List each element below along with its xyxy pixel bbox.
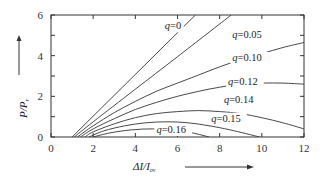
x-tick-label: 10 <box>256 142 268 154</box>
y-tick-label: 0 <box>38 131 44 143</box>
x-tick-label: 6 <box>175 142 181 154</box>
curve-q-0-12 <box>81 83 305 137</box>
x-tick-label: 0 <box>48 142 54 154</box>
curve-label: q=0.16 <box>156 124 186 135</box>
curve-label: q=0.10 <box>232 52 262 63</box>
y-tick-label: 4 <box>38 50 44 62</box>
curve-label: q=0.12 <box>228 76 258 87</box>
series-curves <box>72 15 304 137</box>
x-tick-label: 8 <box>217 142 223 154</box>
curve-label: q=0.14 <box>224 94 254 105</box>
curve-label: q=0 <box>165 20 181 31</box>
y-arrow-head <box>17 35 22 41</box>
y-tick-label: 2 <box>38 90 44 102</box>
x-tick-label: 12 <box>299 142 310 154</box>
y-tick-label: 6 <box>38 9 44 21</box>
curve-label: q=0.15 <box>211 113 241 124</box>
x-arrow-head <box>247 165 254 170</box>
curve-q-0-05 <box>74 15 231 137</box>
curve-labels: q=0q=0.05q=0.10q=0.12q=0.14q=0.15q=0.16 <box>154 20 267 136</box>
curve-label: q=0.05 <box>232 29 262 40</box>
x-axis-label: ΔI/Iov <box>132 160 156 173</box>
y-axis-label: P/Pr <box>17 99 31 120</box>
x-tick-label: 2 <box>90 142 96 154</box>
chart: 024681012 0246 q=0q=0.05q=0.10q=0.12q=0.… <box>0 0 320 184</box>
x-tick-label: 4 <box>133 142 139 154</box>
curve-q-0 <box>72 15 195 137</box>
